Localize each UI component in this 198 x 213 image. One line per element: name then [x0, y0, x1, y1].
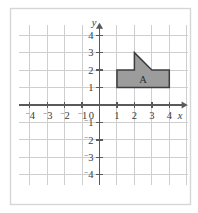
- origin-label: 0: [89, 110, 94, 121]
- y-tick-label--3: −3: [84, 151, 93, 163]
- y-axis-arrow-icon: [96, 23, 103, 29]
- tick-digit: 2: [65, 110, 70, 121]
- x-axis-label: x: [177, 110, 183, 121]
- shapes-layer: A: [117, 53, 169, 88]
- x-tick-label--3: −3: [43, 109, 52, 121]
- y-tick-label--2: −2: [84, 133, 93, 145]
- tick-digit: 2: [88, 135, 93, 146]
- x-tick-label-3: 3: [149, 110, 154, 121]
- y-tick-label-1: 1: [88, 82, 93, 93]
- y-tick-label-2: 2: [88, 65, 93, 76]
- x-tick-label--4: −4: [25, 109, 35, 121]
- x-tick-label-2: 2: [132, 110, 137, 121]
- coordinate-plane: −4−3−2−11234 4321−1−2−3−4 0 x y A: [0, 0, 198, 213]
- x-tick-label--2: −2: [60, 109, 69, 121]
- tick-digit: 3: [47, 110, 52, 121]
- y-axis-label: y: [91, 17, 97, 28]
- tick-digit: 4: [30, 110, 36, 121]
- shape-label-a: A: [139, 74, 147, 85]
- y-tick-label--4: −4: [84, 168, 94, 180]
- coordinate-grid-figure: −4−3−2−11234 4321−1−2−3−4 0 x y A: [0, 0, 198, 213]
- y-tick-label-3: 3: [88, 47, 93, 58]
- tick-digit: 4: [88, 169, 94, 180]
- x-tick-label-4: 4: [167, 110, 173, 121]
- y-tick-label-4: 4: [88, 30, 94, 41]
- x-tick-label-1: 1: [114, 110, 119, 121]
- tick-digit: 3: [88, 152, 93, 163]
